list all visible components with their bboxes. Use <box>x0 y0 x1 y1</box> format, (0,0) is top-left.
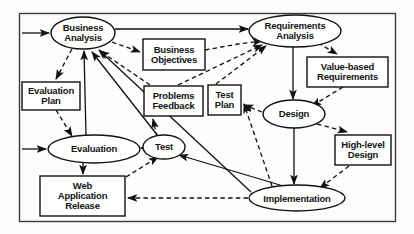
diagram-svg <box>0 0 414 234</box>
node-problems-feedback[interactable] <box>144 86 203 116</box>
edge-web-application-release-to-test <box>126 157 158 177</box>
edge-design-to-high-level-design <box>317 124 347 132</box>
node-implementation[interactable] <box>249 185 345 211</box>
diagram-canvas: Business Analysis Requirements Analysis … <box>0 0 414 234</box>
node-test[interactable] <box>143 135 185 159</box>
node-value-based-requirements[interactable] <box>307 57 388 87</box>
node-business-analysis[interactable] <box>51 17 115 49</box>
edge-value-based-to-design <box>312 87 343 106</box>
node-business-objectives[interactable] <box>143 39 205 70</box>
edge-business-analysis-to-business-objectives <box>112 42 140 52</box>
node-design[interactable] <box>263 100 325 128</box>
node-high-level-design[interactable] <box>335 135 391 165</box>
edge-implementation-to-business-analysis <box>99 50 251 192</box>
edge-test-to-problems-feedback <box>153 119 157 137</box>
node-requirements-analysis[interactable] <box>249 15 341 47</box>
edge-evaluation-to-business-analysis <box>84 51 86 135</box>
edge-high-level-design-to-implementation <box>320 166 349 188</box>
node-test-plan[interactable] <box>208 85 241 115</box>
edge-business-analysis-to-evaluation-plan <box>56 49 72 79</box>
node-web-application-release[interactable] <box>40 176 125 216</box>
edge-test-plan-to-requirements-analysis <box>216 46 266 84</box>
edge-implementation-to-test <box>179 155 290 188</box>
node-evaluation[interactable] <box>48 135 140 163</box>
node-evaluation-plan[interactable] <box>22 82 80 110</box>
edge-business-objectives-to-requirements-analysis <box>205 41 262 50</box>
edge-evaluation-plan-to-evaluation <box>56 110 72 136</box>
